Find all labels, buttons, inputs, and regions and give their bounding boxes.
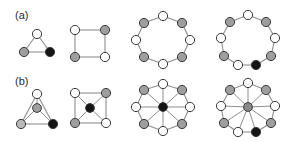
- graph-node: [216, 101, 225, 110]
- row-label-a: (a): [15, 10, 28, 21]
- graph-node: [70, 88, 79, 97]
- graph-node: [70, 118, 79, 127]
- graph-node: [261, 17, 270, 26]
- graph-node: [185, 102, 194, 111]
- graph-hub-node: [33, 104, 42, 113]
- graph-node: [270, 101, 279, 110]
- graph-node: [45, 47, 54, 56]
- graph-node: [32, 29, 41, 38]
- graph-node: [139, 119, 148, 128]
- graph-node: [216, 33, 225, 42]
- graph-node: [233, 60, 242, 69]
- graph-panel-row-a-square: [70, 25, 109, 61]
- graph-node: [251, 127, 260, 136]
- graph-node: [266, 118, 275, 127]
- graph-node: [270, 33, 279, 42]
- graph-node: [261, 85, 270, 94]
- graph-node: [139, 52, 148, 61]
- graph-node: [225, 17, 234, 26]
- graph-node: [70, 52, 79, 61]
- graph-node: [158, 126, 167, 135]
- graph-node: [219, 51, 228, 60]
- graph-node: [131, 35, 140, 44]
- graph-node: [243, 78, 252, 87]
- graph-node: [243, 10, 252, 19]
- graph-node: [19, 47, 28, 56]
- graph-panel-row-b-square-hub: [70, 88, 110, 127]
- graph-node: [177, 119, 186, 128]
- graph-node: [16, 119, 25, 128]
- graph-panel-row-b-triangle-hub: [16, 89, 57, 128]
- graph-panel-row-b-wheel9: [216, 78, 279, 136]
- graph-node: [100, 52, 109, 61]
- graph-node: [139, 18, 148, 27]
- graph-node: [185, 35, 194, 44]
- graph-node: [177, 18, 186, 27]
- graph-panel-row-a-ring9: [216, 10, 279, 69]
- graph-node: [251, 60, 260, 69]
- graph-figure: (a) (b): [0, 0, 304, 142]
- graph-node: [158, 79, 167, 88]
- graph-node: [139, 85, 148, 94]
- graph-node: [48, 119, 57, 128]
- graph-node: [233, 127, 242, 136]
- graph-panel-row-a-triangle: [19, 29, 54, 56]
- graph-node: [177, 85, 186, 94]
- graph-node: [131, 102, 140, 111]
- graph-node: [101, 118, 110, 127]
- graph-node: [266, 51, 275, 60]
- graph-hub-node: [86, 104, 95, 113]
- row-label-b: (b): [15, 76, 28, 87]
- graph-hub-node: [244, 103, 253, 112]
- graph-node: [158, 11, 167, 20]
- graph-node: [225, 85, 234, 94]
- graph-node: [101, 88, 110, 97]
- graph-node: [70, 25, 79, 34]
- graph-panel-row-a-ring8: [131, 11, 194, 68]
- graph-panel-row-b-wheel8: [131, 79, 194, 135]
- graph-canvas: [0, 0, 304, 142]
- graph-node: [32, 89, 41, 98]
- graph-hub-node: [159, 103, 168, 112]
- graph-node: [177, 52, 186, 61]
- graph-node: [100, 25, 109, 34]
- graph-node: [219, 118, 228, 127]
- graph-node: [158, 59, 167, 68]
